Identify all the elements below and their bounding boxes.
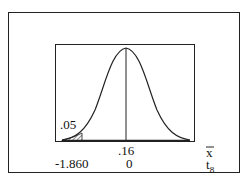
tail-area-label: .05 [60,118,76,131]
t-critical-label: -1.860 [55,157,89,170]
t-axis-label: t8 [206,158,214,177]
t-center-label: 0 [126,157,133,170]
